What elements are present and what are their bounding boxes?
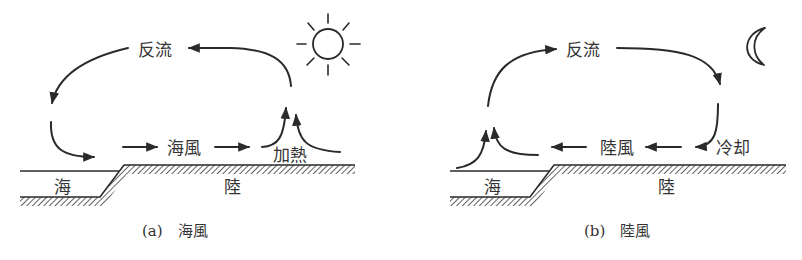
caption-a: (a) 海風	[142, 222, 208, 240]
return-flow-label: 反流	[138, 40, 172, 60]
sea-breeze-label: 海風	[167, 138, 201, 158]
descending-arrow	[52, 48, 128, 103]
cooling-label: 冷却	[716, 138, 750, 158]
caption-b: (b) 陸風	[584, 222, 650, 240]
sea-land-breeze-diagram: 反流 海風 加熱 海 陸 (a) 海風 反流	[0, 0, 802, 260]
rising-air-arrow-left	[457, 131, 486, 168]
land-breeze-label: 陸風	[600, 138, 634, 158]
sea-label: 海	[54, 177, 71, 197]
moon-icon	[747, 28, 765, 65]
panel-land-breeze: 反流 陸風 冷却 海 陸 (b) 陸風	[450, 28, 786, 240]
descending-arrow	[617, 48, 720, 84]
heating-label: 加熱	[273, 145, 307, 165]
rising-air-arrow-right	[494, 128, 538, 155]
return-flow-label: 反流	[566, 40, 600, 60]
offshore-hook-arrow	[696, 104, 718, 147]
rising-return-arrow	[488, 49, 556, 106]
sun-icon	[297, 14, 360, 75]
land-label: 陸	[658, 177, 675, 197]
return-flow-arrow	[189, 48, 291, 86]
rising-air-arrow-left	[262, 108, 286, 147]
sea-label: 海	[484, 177, 501, 197]
panel-sea-breeze: 反流 海風 加熱 海 陸 (a) 海風	[20, 14, 360, 240]
land-label: 陸	[224, 177, 241, 197]
onshore-hook-arrow	[51, 122, 94, 157]
